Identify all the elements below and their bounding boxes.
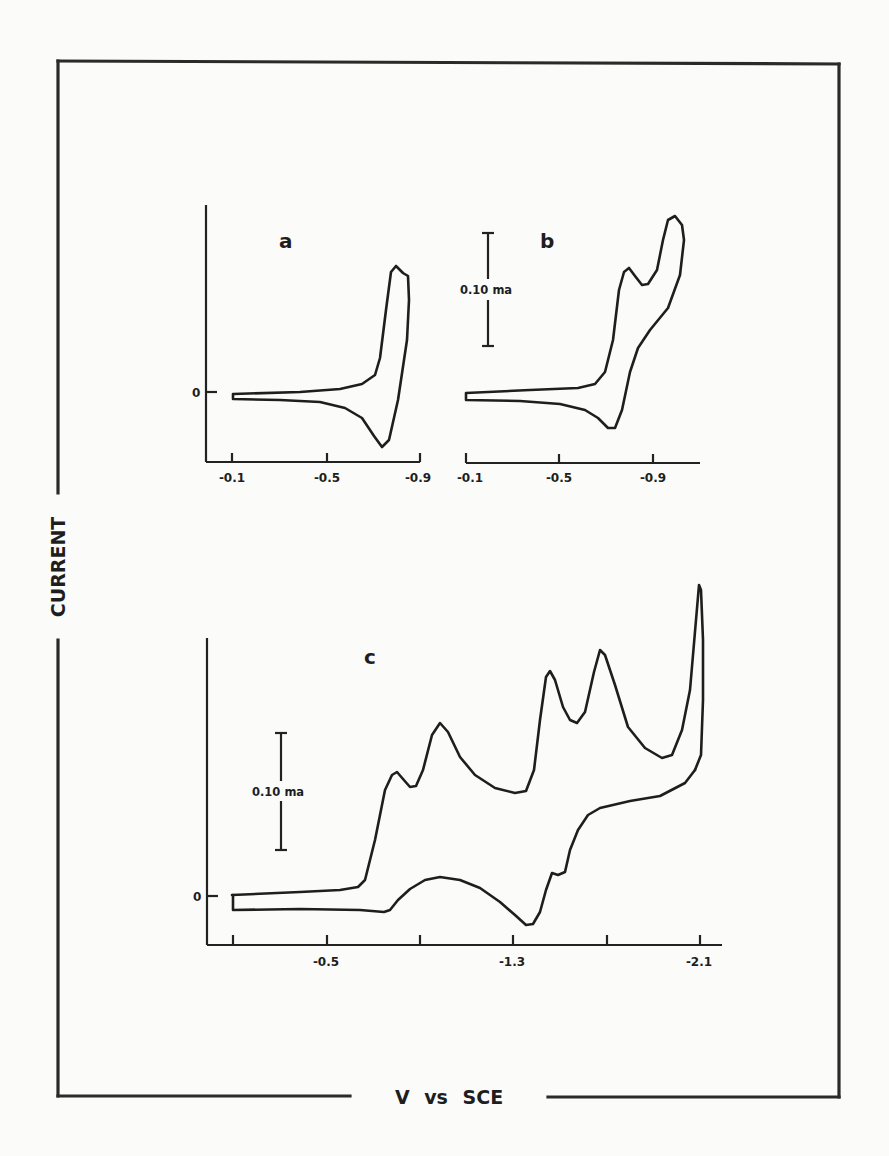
panel-b: -0.1 -0.5 -0.9 b 0.10 ma: [457, 216, 700, 485]
panel-a-label: a: [279, 229, 293, 253]
panel-a-tick-label: -0.5: [314, 471, 340, 485]
x-axis-title: V vs SCE: [395, 1086, 503, 1108]
panel-c-scale-label: 0.10 ma: [252, 785, 304, 799]
panel-a-zero-label: 0: [192, 386, 200, 400]
panel-c-tick-label: -0.5: [313, 955, 339, 969]
panel-c-tick-label: -1.3: [499, 955, 525, 969]
panel-b-tick-label: -0.9: [640, 471, 666, 485]
panel-c: 0 -0.5 -1.3 -2.1 c 0.10 ma: [193, 585, 722, 969]
panel-c-tick-label: -2.1: [686, 955, 712, 969]
panel-b-label: b: [540, 229, 554, 253]
outer-frame: [58, 61, 839, 1097]
panel-b-scale-bar: 0.10 ma: [460, 233, 512, 346]
panel-a-tick-label: -0.1: [219, 471, 245, 485]
y-axis-title: CURRENT: [47, 517, 69, 618]
panel-c-curve-forward: [232, 585, 703, 895]
panel-a-tick-label: -0.9: [405, 471, 431, 485]
panel-b-scale-label: 0.10 ma: [460, 283, 512, 297]
panel-a: 0 -0.1 -0.5 -0.9 a: [192, 205, 431, 485]
panel-a-curve: [233, 266, 409, 447]
panel-c-zero-label: 0: [193, 890, 201, 904]
voltammogram-figure: CURRENT V vs SCE 0 -0.1 -0.5 -0.9 a -0.1…: [0, 0, 889, 1156]
panel-c-scale-bar: 0.10 ma: [252, 733, 304, 850]
panel-c-label: c: [364, 645, 376, 669]
panel-b-tick-label: -0.1: [457, 471, 483, 485]
panel-b-tick-label: -0.5: [546, 471, 572, 485]
panel-b-curve: [466, 216, 684, 428]
